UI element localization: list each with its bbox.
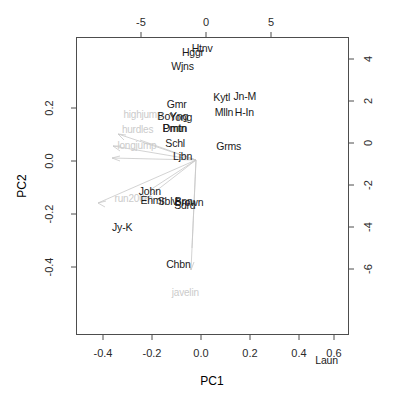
left-tick-label-3: -0.4	[43, 258, 55, 277]
bottom-tick-label-3: 0.2	[242, 347, 257, 359]
y-axis-title: PC2	[15, 174, 29, 197]
x-axis-title: PC1	[200, 374, 223, 388]
variable-label: hurdles	[122, 124, 153, 135]
bottom-tick-label-4: 0.4	[291, 347, 306, 359]
top-tick-label-0: -5	[136, 16, 146, 28]
observation-label: Laun	[315, 354, 338, 366]
variable-label: highjump	[123, 109, 162, 120]
observation-label: Grms	[216, 140, 241, 152]
left-tick-label-0: 0.2	[43, 100, 55, 115]
observation-label: Gmr	[167, 98, 187, 110]
observation-label: Jy-K	[112, 221, 132, 233]
bottom-tick-label-0: -0.4	[94, 347, 113, 359]
variable-label: longjump	[117, 140, 156, 151]
axis-ticks	[71, 32, 354, 340]
top-tick-label-1: 0	[203, 16, 209, 28]
observation-label: Dmtn	[163, 122, 187, 134]
observation-label: H-In	[235, 106, 254, 118]
left-tick-label-1: 0.0	[43, 153, 55, 168]
right-tick-label-4: -4	[362, 222, 374, 232]
pca-biplot: -5 0 5 0.2 0.0 -0.2 -0.4 4 2 0 -2 -4 -6 …	[0, 0, 403, 409]
observation-label: Hggr	[182, 46, 204, 58]
plot-frame	[77, 38, 349, 335]
observation-label: Schl	[165, 137, 185, 149]
bottom-tick-label-2: 0.0	[193, 347, 208, 359]
right-tick-label-5: -6	[362, 264, 374, 274]
right-tick-label-1: 2	[362, 98, 374, 104]
variable-label: javelin	[172, 286, 199, 297]
right-tick-label-3: -2	[362, 180, 374, 190]
right-tick-label-0: 4	[362, 56, 374, 62]
observation-label: Sdrd	[174, 199, 195, 211]
left-tick-label-2: -0.2	[43, 205, 55, 224]
arrow-run200m-head	[98, 201, 106, 207]
bottom-tick-label-1: -0.2	[143, 347, 162, 359]
right-tick-label-2: 0	[362, 140, 374, 146]
observation-label: Jn-M	[233, 90, 256, 102]
observation-label: Kytl	[213, 91, 230, 103]
observation-label: Chbn	[166, 258, 190, 270]
observation-label: Mlln	[215, 106, 233, 118]
top-tick-label-2: 5	[268, 16, 274, 28]
observation-label: Ljbn	[173, 150, 192, 162]
observation-label: Wjns	[171, 60, 194, 72]
